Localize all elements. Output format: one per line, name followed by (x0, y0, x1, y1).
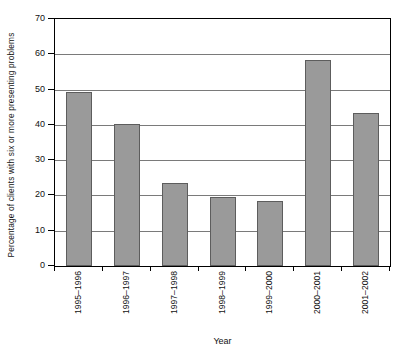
bar (305, 60, 331, 266)
x-axis-tick-labels: 1995–19961996–19971997–19981998–19991999… (54, 271, 391, 333)
x-axis-tick-label-text: 1997–1998 (169, 271, 178, 314)
x-axis-tick-label: 1996–1997 (119, 271, 133, 333)
x-axis-tick-label: 1997–1998 (167, 271, 181, 333)
x-axis-title: Year (54, 336, 391, 346)
x-axis-tick-label-text: 1995–1996 (73, 271, 82, 314)
y-axis-tick-label: 50 (35, 84, 45, 93)
y-axis-tick-label: 60 (35, 49, 45, 58)
x-axis-tick-label: 2001–2002 (358, 271, 372, 333)
bar (353, 113, 379, 266)
y-axis-tick-labels: 010203040506070 (20, 0, 50, 290)
x-axis-tick-label: 2000–2001 (310, 271, 324, 333)
bar (162, 183, 188, 266)
y-axis-tick-label: 0 (40, 261, 45, 270)
bars-layer (55, 19, 390, 266)
bar-chart: Percentage of clients with six or more p… (0, 0, 401, 357)
bar (114, 124, 140, 266)
x-axis-tick-label-text: 1996–1997 (121, 271, 130, 314)
bar (257, 201, 283, 266)
x-axis-tick-label: 1995–1996 (71, 271, 85, 333)
x-axis-tick-label: 1999–2000 (262, 271, 276, 333)
bar (210, 197, 236, 266)
bar (66, 92, 92, 266)
x-axis-tick-label: 1998–1999 (215, 271, 229, 333)
x-axis-tick-label-text: 2001–2002 (361, 271, 370, 314)
y-axis-title-text: Percentage of clients with six or more p… (5, 33, 15, 258)
plot-area (54, 18, 391, 267)
y-axis-tick-label: 10 (35, 225, 45, 234)
y-axis-tick-label: 20 (35, 190, 45, 199)
y-axis-title: Percentage of clients with six or more p… (0, 0, 20, 290)
y-axis-tick-label: 70 (35, 14, 45, 23)
x-axis-tick-label-text: 1998–1999 (217, 271, 226, 314)
y-axis-tick-label: 40 (35, 119, 45, 128)
x-axis-tick-label-text: 1999–2000 (265, 271, 274, 314)
y-axis-tick-label: 30 (35, 155, 45, 164)
x-axis-tick-label-text: 2000–2001 (313, 271, 322, 314)
